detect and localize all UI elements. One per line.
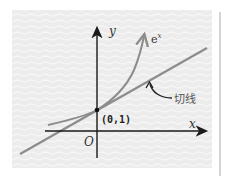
tangent-label: 切线 — [174, 92, 196, 106]
tangent-point — [95, 108, 100, 113]
point-label: (0,1) — [101, 114, 131, 125]
y-axis-label: y — [108, 24, 116, 38]
origin-label: O — [84, 135, 94, 149]
tangent-diagram: y x O ex (0,1) 切线 — [0, 0, 227, 179]
x-axis-label: x — [189, 117, 196, 131]
